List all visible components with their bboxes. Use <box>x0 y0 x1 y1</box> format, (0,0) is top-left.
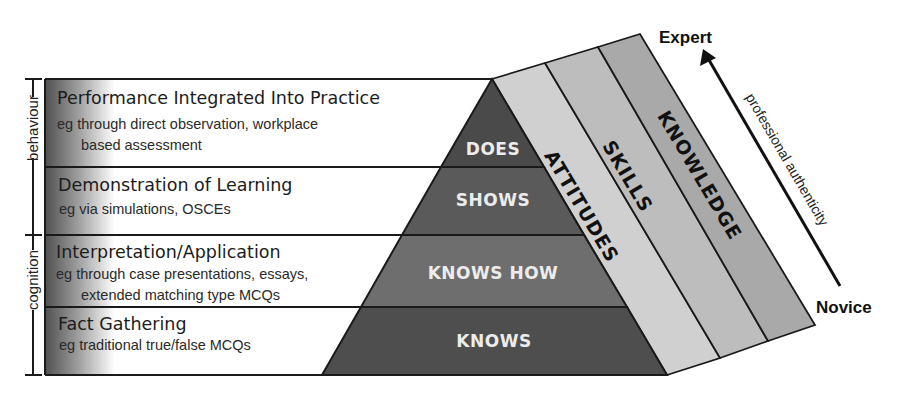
row-desc-performance-2: based assessment <box>81 137 202 153</box>
millers-pyramid-diagram: DOES SHOWS KNOWS HOW KNOWS ATTITUDES SKI… <box>0 0 905 395</box>
axis-label-novice: Novice <box>816 298 872 317</box>
tier-label-does: DOES <box>466 139 520 159</box>
row-title-interpretation: Interpretation/Application <box>56 242 281 262</box>
row-title-demonstration: Demonstration of Learning <box>58 175 292 195</box>
tier-label-knows: KNOWS <box>456 331 531 351</box>
axis-label-professional-authenticity: professional authenticity <box>743 91 832 229</box>
tier-label-knows-how: KNOWS HOW <box>428 263 559 283</box>
bracket-label-behaviour: behaviour <box>24 95 41 161</box>
row-desc-fact-gathering-1: eg traditional true/false MCQs <box>59 337 251 353</box>
axis-label-expert: Expert <box>659 28 712 47</box>
row-desc-performance-1: eg through direct observation, workplace <box>57 116 318 132</box>
row-desc-interpretation-2: extended matching type MCQs <box>81 287 280 303</box>
tier-label-shows: SHOWS <box>456 190 530 210</box>
row-title-fact-gathering: Fact Gathering <box>58 314 187 334</box>
row-desc-demonstration-1: eg via simulations, OSCEs <box>59 201 231 217</box>
bracket-label-cognition: cognition <box>24 250 41 310</box>
row-title-performance: Performance Integrated Into Practice <box>57 88 380 108</box>
row-desc-interpretation-1: eg through case presentations, essays, <box>56 266 308 282</box>
